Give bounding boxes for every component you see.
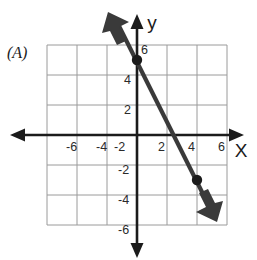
line-lower-arrow-icon (196, 189, 223, 222)
x-tick-label--2: -2 (114, 140, 125, 154)
y-tick-label--2: -2 (118, 163, 129, 177)
x-tick-label-2: 2 (158, 140, 165, 154)
y-tick-label-4: 4 (124, 73, 131, 87)
y-axis-up-arrow-icon (131, 14, 144, 29)
graph-figure: (A) (0, 0, 257, 260)
x-tick-labels: -6 -4 -2 2 4 6 (66, 140, 225, 154)
coordinate-plane: X y -6 -4 -2 2 4 6 6 4 2 -2 -4 -6 (0, 0, 257, 260)
y-axis-label: y (147, 12, 157, 33)
y-tick-label--6: -6 (118, 223, 129, 237)
y-tick-label--4: -4 (118, 193, 129, 207)
x-axis-left-arrow-icon (10, 129, 25, 142)
x-tick-label--6: -6 (66, 140, 77, 154)
x-axis-label: X (235, 140, 248, 161)
y-tick-label-2: 2 (124, 103, 131, 117)
y-tick-label-6: 6 (141, 43, 148, 57)
x-tick-label-6: 6 (218, 140, 225, 154)
x-tick-label-4: 4 (188, 140, 195, 154)
line-upper-arrow-icon (102, 12, 129, 45)
y-axis-down-arrow-icon (131, 243, 144, 258)
x-tick-label--4: -4 (96, 140, 107, 154)
plotted-point-4-neg3 (192, 175, 202, 185)
plotted-line-group (102, 12, 223, 222)
axes (10, 14, 244, 258)
